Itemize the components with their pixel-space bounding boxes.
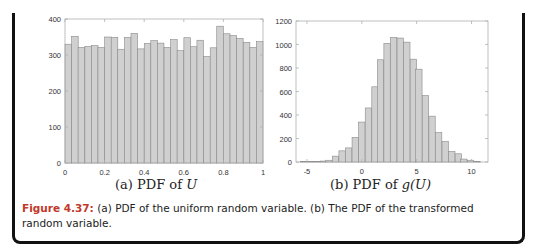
histogram-bar: [91, 46, 98, 163]
histogram-bar: [111, 37, 118, 163]
histogram-bar: [416, 69, 422, 162]
histogram-bar: [65, 44, 72, 163]
svg-text:400: 400: [48, 15, 61, 24]
histogram-bar: [339, 151, 345, 162]
histogram-bar: [390, 37, 396, 162]
histogram-bar: [243, 42, 250, 163]
histogram-bar: [204, 56, 211, 163]
histogram-bar: [197, 40, 204, 163]
histogram-bar: [144, 43, 151, 163]
svg-text:0: 0: [360, 167, 364, 176]
histogram-bar: [78, 47, 85, 163]
subcaption-b-arg: (U): [410, 177, 431, 192]
svg-text:800: 800: [279, 64, 292, 73]
histogram-bar: [210, 48, 217, 163]
figure-caption: Figure 4.37: (a) PDF of the uniform rand…: [22, 201, 512, 231]
svg-text:1200: 1200: [275, 17, 292, 26]
histogram-bar: [377, 60, 383, 162]
svg-text:5: 5: [415, 167, 419, 176]
histogram-bar: [237, 38, 244, 163]
subcaption-b-func: g: [402, 177, 410, 192]
figure-label: Figure 4.37:: [22, 202, 94, 214]
histogram-bar: [190, 47, 197, 163]
histogram-bar: [467, 160, 473, 162]
subcaption-a: (a) PDF of U: [115, 177, 197, 192]
histogram-bar: [256, 42, 263, 163]
histogram-bar: [461, 159, 467, 162]
histogram-bar: [332, 156, 338, 162]
histogram-bar: [105, 37, 112, 163]
histogram-bar: [217, 26, 224, 163]
histogram-bar: [184, 38, 191, 163]
histogram-bar: [85, 46, 92, 163]
histogram-bar: [118, 49, 125, 163]
histogram-bar: [435, 133, 441, 162]
histogram-bar: [422, 96, 428, 162]
histogram-bar: [449, 151, 455, 162]
svg-text:600: 600: [279, 88, 292, 97]
histogram-bar: [124, 37, 131, 163]
svg-text:0.6: 0.6: [179, 168, 189, 177]
histogram-bar: [404, 42, 410, 162]
histogram-bar: [223, 34, 230, 163]
svg-text:300: 300: [48, 51, 61, 60]
histogram-bar: [384, 43, 390, 162]
histogram-bar: [429, 116, 435, 162]
svg-text:-5: -5: [304, 167, 311, 176]
histogram-bar: [314, 161, 320, 162]
svg-text:200: 200: [279, 135, 292, 144]
histogram-bar: [230, 36, 237, 163]
histogram-bar: [326, 160, 332, 162]
histogram-bar: [138, 49, 145, 163]
svg-text:0.8: 0.8: [218, 168, 228, 177]
svg-text:100: 100: [48, 123, 61, 132]
svg-text:0: 0: [57, 159, 61, 168]
histogram-transformed: 020040060080010001200-50510: [268, 12, 498, 180]
histogram-bar: [164, 47, 171, 163]
svg-text:1000: 1000: [275, 41, 292, 50]
histogram-bar: [98, 47, 105, 163]
subcaption-a-var: U: [186, 177, 197, 192]
histogram-bar: [171, 40, 178, 163]
subcaption-a-text: (a) PDF of: [115, 177, 186, 192]
svg-text:0.2: 0.2: [99, 168, 109, 177]
svg-text:0.4: 0.4: [139, 168, 149, 177]
svg-text:200: 200: [48, 87, 61, 96]
histogram-bar: [359, 122, 365, 162]
svg-text:400: 400: [279, 111, 292, 120]
histogram-bar: [365, 108, 371, 162]
histogram-bar: [345, 148, 351, 162]
histogram-bar: [177, 51, 184, 163]
histogram-bar: [151, 41, 158, 163]
histogram-bar: [397, 38, 403, 162]
svg-text:0: 0: [63, 168, 67, 177]
histogram-bar: [72, 36, 79, 163]
histogram-bar: [157, 43, 164, 163]
svg-text:1: 1: [261, 168, 265, 177]
subcaption-b-text: (b) PDF of: [330, 177, 402, 192]
histogram-uniform: 010020030040000.20.40.60.81: [36, 12, 268, 180]
subcaption-b: (b) PDF of g(U): [330, 177, 431, 192]
svg-text:10: 10: [467, 167, 475, 176]
histogram-bar: [442, 141, 448, 162]
histogram-bar: [474, 161, 480, 162]
histogram-bar: [250, 47, 257, 163]
histogram-bar: [352, 137, 358, 162]
svg-text:0: 0: [288, 158, 292, 167]
histogram-bar: [131, 33, 138, 163]
